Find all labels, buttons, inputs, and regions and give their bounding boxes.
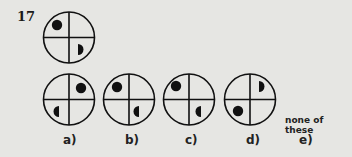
- option-b-label[interactable]: b): [125, 133, 139, 147]
- full-dot-icon: [233, 106, 243, 116]
- half-dot-icon: [259, 81, 265, 92]
- full-dot-icon: [112, 82, 122, 92]
- full-dot-icon: [52, 20, 62, 30]
- option-b-figure[interactable]: [102, 72, 156, 127]
- question-figure: [42, 10, 96, 65]
- option-e-text[interactable]: none of these: [285, 115, 352, 135]
- option-c-label[interactable]: c): [185, 133, 198, 147]
- half-dot-icon: [196, 106, 201, 117]
- option-e-label[interactable]: e): [299, 133, 313, 147]
- option-c-figure[interactable]: [162, 72, 216, 127]
- option-d-figure[interactable]: [223, 72, 277, 127]
- question-number: 17: [17, 9, 35, 24]
- half-dot-icon: [78, 44, 83, 55]
- option-a-figure[interactable]: [42, 72, 96, 127]
- full-dot-icon: [171, 81, 181, 91]
- option-a-label[interactable]: a): [63, 133, 77, 147]
- option-d-label[interactable]: d): [246, 133, 260, 147]
- full-dot-icon: [76, 83, 86, 93]
- half-dot-icon: [134, 106, 139, 117]
- half-dot-icon: [54, 106, 59, 117]
